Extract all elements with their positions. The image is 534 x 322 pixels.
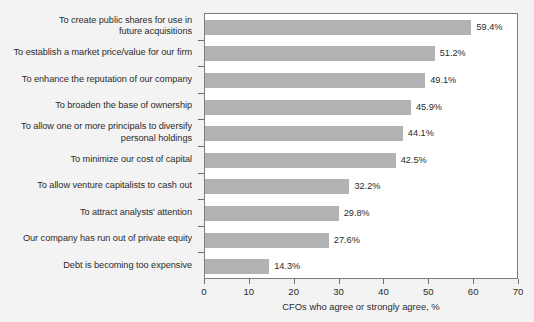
horizontal-bar-chart: To create public shares for use infuture… bbox=[0, 0, 534, 322]
bar bbox=[205, 46, 435, 61]
x-axis-tick bbox=[204, 279, 205, 284]
y-axis-tick bbox=[198, 146, 204, 147]
bar-value-label: 32.2% bbox=[354, 179, 380, 194]
x-axis-tick bbox=[518, 279, 519, 284]
y-axis-tick bbox=[198, 93, 204, 94]
y-axis-tick bbox=[198, 252, 204, 253]
x-axis-tick bbox=[249, 279, 250, 284]
category-label: To broaden the base of ownership bbox=[0, 100, 192, 111]
bar-value-label: 42.5% bbox=[401, 153, 427, 168]
bar bbox=[205, 179, 349, 194]
plot-area: 59.4%51.2%49.1%45.9%44.1%42.5%32.2%29.8%… bbox=[204, 13, 518, 279]
y-axis-tick bbox=[198, 226, 204, 227]
y-axis-tick bbox=[198, 119, 204, 120]
bar-value-label: 44.1% bbox=[408, 126, 434, 141]
x-axis-tick bbox=[473, 279, 474, 284]
x-axis-title: CFOs who agree or strongly agree, % bbox=[204, 301, 518, 312]
category-label: To create public shares for use infuture… bbox=[0, 15, 192, 38]
x-axis-tick-label: 10 bbox=[229, 286, 269, 297]
bars-container: 59.4%51.2%49.1%45.9%44.1%42.5%32.2%29.8%… bbox=[205, 14, 517, 278]
y-axis-tick bbox=[198, 173, 204, 174]
bar-value-label: 45.9% bbox=[416, 100, 442, 115]
x-axis-tick-label: 70 bbox=[498, 286, 534, 297]
x-axis-tick bbox=[383, 279, 384, 284]
bar bbox=[205, 126, 403, 141]
bar-value-label: 59.4% bbox=[476, 20, 502, 35]
bar bbox=[205, 233, 329, 248]
bar bbox=[205, 153, 396, 168]
category-label: To allow one or more principals to diver… bbox=[0, 121, 192, 144]
category-label: To enhance the reputation of our company bbox=[0, 74, 192, 85]
x-axis-tick-label: 20 bbox=[274, 286, 314, 297]
x-axis-tick bbox=[428, 279, 429, 284]
bar bbox=[205, 20, 471, 35]
y-axis-tick bbox=[198, 40, 204, 41]
category-label: Debt is becoming too expensive bbox=[0, 260, 192, 271]
bar-value-label: 29.8% bbox=[344, 206, 370, 221]
x-axis-tick-label: 40 bbox=[363, 286, 403, 297]
bar-value-label: 51.2% bbox=[440, 46, 466, 61]
x-axis-tick-label: 60 bbox=[453, 286, 493, 297]
y-axis-tick bbox=[198, 66, 204, 67]
category-label: To allow venture capitalists to cash out bbox=[0, 180, 192, 191]
bar-value-label: 49.1% bbox=[430, 73, 456, 88]
bar-value-label: 14.3% bbox=[274, 259, 300, 274]
x-axis-tick-label: 30 bbox=[319, 286, 359, 297]
category-labels-column: To create public shares for use infuture… bbox=[0, 13, 196, 279]
category-label: To minimize our cost of capital bbox=[0, 154, 192, 165]
bar bbox=[205, 73, 425, 88]
bar bbox=[205, 206, 339, 221]
bar bbox=[205, 259, 269, 274]
x-axis-tick-label: 0 bbox=[184, 286, 224, 297]
bar-value-label: 27.6% bbox=[334, 233, 360, 248]
category-label: To attract analysts' attention bbox=[0, 207, 192, 218]
x-axis-tick bbox=[339, 279, 340, 284]
x-axis-tick bbox=[294, 279, 295, 284]
category-label: Our company has run out of private equit… bbox=[0, 233, 192, 244]
bar bbox=[205, 100, 411, 115]
x-axis-tick-label: 50 bbox=[408, 286, 448, 297]
y-axis-tick bbox=[198, 199, 204, 200]
category-label: To establish a market price/value for ou… bbox=[0, 47, 192, 58]
